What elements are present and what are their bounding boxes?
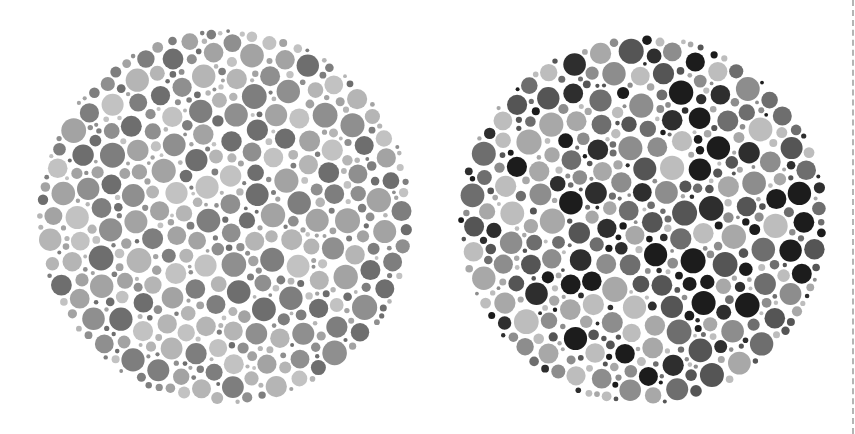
dot: [586, 211, 599, 224]
dot: [725, 295, 734, 304]
dot: [625, 226, 644, 245]
dot: [723, 212, 733, 222]
dot: [693, 184, 702, 193]
dot: [500, 232, 522, 254]
dot: [499, 278, 506, 285]
dot: [561, 347, 565, 351]
dot: [762, 298, 772, 308]
dot: [522, 233, 527, 238]
dot: [796, 161, 816, 181]
dot: [787, 161, 796, 170]
dot: [589, 89, 611, 111]
dot: [508, 150, 514, 156]
dot: [660, 234, 668, 242]
dot: [663, 355, 684, 376]
dot: [748, 319, 760, 331]
dot: [498, 316, 511, 329]
dot: [567, 218, 572, 223]
dot: [715, 221, 723, 229]
dot: [685, 357, 689, 361]
dot: [625, 365, 638, 378]
dot: [542, 249, 561, 268]
dot: [477, 136, 481, 140]
dot: [643, 62, 647, 66]
dot: [692, 291, 716, 315]
dot: [494, 293, 515, 314]
dot: [568, 182, 574, 188]
dot: [553, 308, 557, 312]
dot: [729, 347, 734, 352]
dot: [642, 338, 663, 359]
dot: [784, 207, 794, 217]
dot: [544, 239, 548, 243]
dot: [804, 239, 824, 259]
dot: [718, 176, 739, 197]
dot: [637, 357, 646, 366]
dot: [539, 344, 559, 364]
dot: [689, 339, 713, 363]
dot: [640, 121, 656, 137]
dot: [590, 43, 611, 64]
dot: [773, 107, 792, 126]
dot: [552, 285, 558, 291]
dot: [463, 210, 469, 216]
dot: [735, 282, 745, 292]
dot: [768, 183, 773, 188]
dot: [670, 249, 674, 253]
dot: [523, 249, 528, 254]
dot: [465, 167, 473, 175]
dot: [759, 311, 763, 315]
dot: [533, 72, 539, 78]
dot: [610, 363, 619, 372]
dot: [783, 263, 787, 267]
dot: [592, 369, 612, 389]
dot: [780, 283, 802, 305]
dot: [739, 248, 749, 258]
dot: [710, 333, 717, 340]
dot: [760, 152, 781, 173]
dot: [694, 135, 703, 144]
dot: [623, 104, 627, 108]
dot: [647, 83, 655, 91]
dot: [656, 38, 665, 47]
dot: [595, 84, 599, 88]
dot: [542, 271, 554, 283]
dot: [682, 107, 689, 114]
dot: [804, 147, 815, 158]
dot: [814, 182, 825, 193]
dot: [679, 180, 691, 192]
dot: [665, 216, 672, 223]
dot: [464, 242, 484, 262]
dot: [549, 332, 558, 341]
dot: [629, 290, 633, 294]
dot: [752, 238, 776, 262]
dot: [794, 212, 815, 233]
dot: [615, 375, 621, 381]
dot: [518, 296, 524, 302]
dot: [749, 224, 760, 235]
dot: [772, 294, 777, 299]
dot: [685, 369, 697, 381]
dot: [713, 169, 722, 178]
dot: [675, 272, 683, 280]
dot: [628, 83, 633, 88]
dot: [788, 182, 811, 205]
dot: [663, 43, 682, 62]
dot: [739, 262, 753, 276]
dot: [601, 336, 606, 341]
dot: [662, 110, 683, 131]
dot: [461, 183, 485, 207]
dot: [690, 385, 702, 397]
dot: [710, 106, 717, 113]
dot: [779, 239, 801, 261]
dot: [529, 99, 534, 104]
dot: [516, 129, 541, 154]
dot: [814, 196, 818, 200]
dot: [585, 343, 605, 363]
dot: [717, 162, 721, 166]
dot: [777, 269, 790, 282]
dot: [615, 344, 635, 364]
dot: [645, 387, 661, 403]
dot: [626, 163, 630, 167]
dot: [781, 327, 789, 335]
